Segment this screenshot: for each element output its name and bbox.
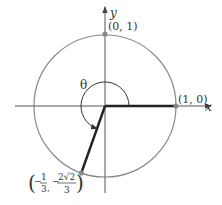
point-0-1-marker [102, 31, 107, 36]
terminal-point-label: ( − 1 3 , − 2√2 3 ) [28, 171, 84, 195]
y-axis-label: y [109, 6, 117, 20]
svg-text:1: 1 [41, 172, 47, 182]
terminal-side-radius [81, 106, 105, 173]
svg-text:): ) [76, 171, 84, 195]
theta-label: θ [80, 78, 87, 92]
point-1-0-label: (1, 0) [178, 93, 208, 106]
svg-text:2√2: 2√2 [58, 172, 75, 182]
svg-text:3: 3 [64, 185, 70, 195]
point-0-1-label: (0, 1) [108, 20, 138, 33]
unit-circle-diagram: y x (0, 1) (1, 0) θ ( − 1 3 , − 2√2 3 ) [0, 0, 222, 205]
svg-text:,: , [47, 183, 50, 193]
